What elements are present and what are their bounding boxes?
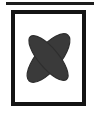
horizontal-rule: [6, 2, 94, 5]
cross-ellipses-icon: [15, 14, 82, 102]
icon-frame-inner: [15, 14, 82, 102]
icon-frame: [11, 10, 86, 106]
figure-caption: [0, 107, 96, 117]
figure-canvas: [0, 0, 96, 117]
